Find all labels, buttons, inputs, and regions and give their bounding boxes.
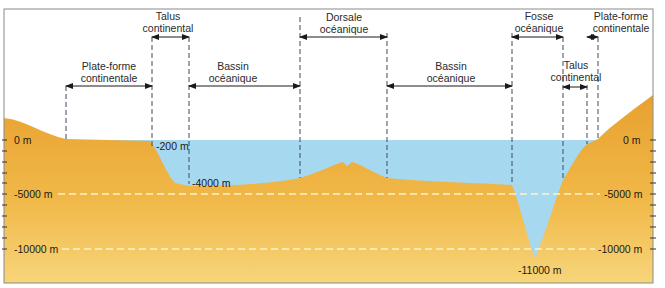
- right-axis-label-0: 0 m: [623, 134, 641, 146]
- annotation-basin-floor: -4000 m: [192, 177, 231, 189]
- label-talus-continental-left: Taluscontinental: [143, 10, 194, 34]
- label-bassin-oceanique-left: Bassinocéanique: [209, 60, 257, 84]
- label-dorsale-oceanique: Dorsaleocéanique: [320, 11, 368, 35]
- label-fosse-oceanique: Fosseocéanique: [515, 10, 563, 34]
- left-axis-label-0: 0 m: [14, 134, 32, 146]
- ocean-floor-profile-diagram: Plate-formecontinentale Taluscontinental…: [0, 0, 665, 288]
- right-axis-label-5000: -5000 m: [604, 188, 643, 200]
- label-plate-forme-continentale-left: Plate-formecontinentale: [81, 60, 138, 84]
- left-axis-label-10000: -10000 m: [14, 243, 58, 255]
- left-axis-label-5000: -5000 m: [14, 188, 53, 200]
- annotation-shelf-edge: -200 m: [156, 140, 189, 152]
- profile-svg: [0, 0, 665, 288]
- right-axis-label-10000: -10000 m: [598, 243, 642, 255]
- label-talus-continental-right: Taluscontinental: [551, 59, 602, 83]
- annotation-trench-bottom: -11000 m: [518, 264, 562, 276]
- label-bassin-oceanique-right: Bassinocéanique: [427, 60, 475, 84]
- label-plate-forme-continentale-right: Plate-formecontinentale: [593, 10, 650, 34]
- region-extent-arrows: [66, 37, 598, 87]
